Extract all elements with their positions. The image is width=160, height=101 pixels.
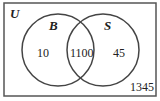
outside-value: 1345 (130, 80, 154, 94)
set-b-only-value: 10 (37, 46, 49, 60)
set-b-label: B (48, 18, 58, 33)
universe-label: U (10, 6, 20, 21)
venn-diagram: U B S 10 1100 45 1345 (0, 0, 160, 101)
set-s-label: S (104, 18, 111, 33)
intersection-value: 1100 (70, 46, 94, 60)
set-s-only-value: 45 (113, 46, 125, 60)
